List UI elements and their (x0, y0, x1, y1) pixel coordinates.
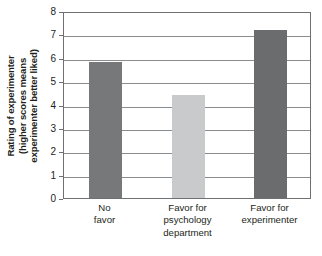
y-tick-label: 3 (50, 122, 56, 135)
y-tick-mark (59, 199, 63, 200)
x-tick-label-line: No (64, 202, 145, 214)
y-tick-5: 5 (0, 82, 63, 83)
y-tick-label: 7 (50, 28, 56, 41)
bar (254, 30, 287, 198)
y-tick-label: 8 (50, 5, 56, 18)
x-tick-label: Nofavor (64, 202, 145, 227)
x-tick-label-line: psychology (147, 214, 228, 226)
y-tick-7: 7 (0, 35, 63, 36)
y-tick-8: 8 (0, 12, 63, 13)
y-tick-3: 3 (0, 129, 63, 130)
bar (89, 62, 122, 198)
plot-area (63, 12, 311, 199)
y-tick-label: 6 (50, 52, 56, 65)
x-tick-label-line: department (147, 227, 228, 239)
x-tick-label-line: Favor for (147, 202, 228, 214)
y-tick-label: 0 (50, 192, 56, 205)
y-tick-6: 6 (0, 59, 63, 60)
bar (172, 95, 205, 198)
y-tick-2: 2 (0, 152, 63, 153)
x-tick-label-line: favor (64, 214, 145, 226)
bar-chart-figure: Rating of experimenter (higher scores me… (0, 0, 322, 256)
x-tick-label: Favor forexperimenter (229, 202, 310, 227)
y-tick-label: 2 (50, 145, 56, 158)
y-tick-1: 1 (0, 176, 63, 177)
y-tick-label: 4 (50, 99, 56, 112)
y-axis: 012345678 (0, 12, 63, 199)
x-tick-label: Favor forpsychologydepartment (147, 202, 228, 239)
x-axis-labels: NofavorFavor forpsychologydepartmentFavo… (63, 202, 311, 252)
x-tick-label-line: Favor for (229, 202, 310, 214)
y-tick-label: 1 (50, 169, 56, 182)
y-tick-label: 5 (50, 75, 56, 88)
y-tick-0: 0 (0, 199, 63, 200)
x-tick-label-line: experimenter (229, 214, 310, 226)
y-tick-4: 4 (0, 106, 63, 107)
